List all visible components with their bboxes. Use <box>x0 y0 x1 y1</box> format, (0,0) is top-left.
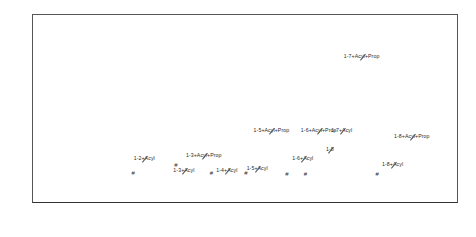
unassigned-peak-marker: # <box>174 162 177 168</box>
mass-spectrum-figure: 1-2+Acyl1-3+Acyl1-3+Acyl+Prop1-4+Acyl1-5… <box>0 0 476 237</box>
unassigned-peak-marker: # <box>375 171 378 177</box>
unassigned-peak-marker: # <box>210 170 213 176</box>
unassigned-peak-marker: # <box>304 171 307 177</box>
unassigned-peak-marker: # <box>285 171 288 177</box>
unassigned-peak-marker: # <box>131 170 134 176</box>
unassigned-peak-marker: # <box>244 170 247 176</box>
